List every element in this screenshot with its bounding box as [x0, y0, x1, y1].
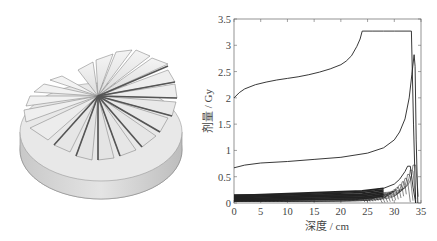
plot-area — [234, 19, 421, 203]
x-tick-label: 20 — [336, 206, 347, 217]
y-tick-label: 1.5 — [218, 119, 231, 130]
y-axis-label: 剂量 / Gy — [201, 89, 214, 134]
x-tick-label: 15 — [309, 206, 320, 217]
y-axis-tick-labels: 00.511.522.533.5 — [218, 14, 231, 209]
y-tick-label: 1 — [226, 145, 231, 156]
range-modulator-wheel-illustration — [20, 50, 182, 199]
figure: 05101520253035 00.511.522.533.5 深度 / cm … — [0, 0, 437, 241]
x-tick-label: 35 — [416, 206, 427, 217]
x-tick-label: 30 — [389, 206, 400, 217]
dose-depth-chart: 05101520253035 00.511.522.533.5 深度 / cm … — [201, 14, 426, 232]
x-tick-label: 25 — [362, 206, 373, 217]
y-tick-label: 0.5 — [218, 172, 231, 183]
y-tick-label: 0 — [226, 198, 231, 209]
x-axis-label: 深度 / cm — [305, 219, 349, 232]
x-tick-label: 10 — [282, 206, 293, 217]
y-tick-label: 3 — [226, 40, 231, 51]
y-tick-label: 3.5 — [218, 14, 231, 25]
y-tick-label: 2 — [226, 93, 231, 104]
x-axis-tick-labels: 05101520253035 — [231, 206, 426, 217]
x-tick-label: 5 — [258, 206, 263, 217]
x-tick-label: 0 — [231, 206, 236, 217]
y-tick-label: 2.5 — [218, 67, 231, 78]
